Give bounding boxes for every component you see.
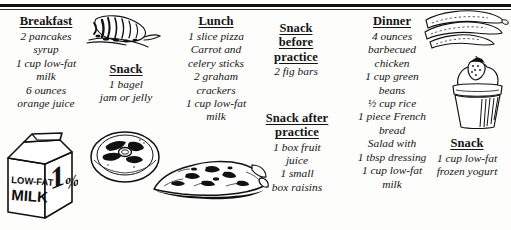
snack-evening-item: 1 cup low-fat	[424, 152, 510, 165]
breakfast-item: milk	[0, 70, 93, 83]
lunch-item: Carrot and	[164, 43, 268, 56]
carrot-illustration	[86, 10, 168, 54]
heading-snack-before-practice: before	[258, 36, 334, 49]
dinner-item: beans	[340, 84, 444, 97]
heading-lunch: Lunch	[164, 14, 268, 29]
column-snack-before-practice: Snack before practice 2 fig bars	[258, 22, 334, 78]
lunch-item: celery sticks	[164, 57, 268, 70]
carton-label-percent: 1	[50, 157, 65, 197]
breakfast-item: orange juice	[0, 97, 93, 110]
snack-morning-item: 1 bagel	[84, 78, 168, 91]
lunch-item: 1 cup low-fat	[164, 97, 268, 110]
snack-morning-item: jam or jelly	[84, 91, 168, 104]
milk-carton-illustration: LOW-FAT MILK 1 %	[4, 126, 78, 222]
snack-evening-item: frozen yogurt	[424, 165, 510, 178]
column-snack-evening: Snack 1 cup low-fat frozen yogurt	[424, 136, 510, 179]
snack-before-practice-item: 2 fig bars	[258, 65, 334, 78]
heading-breakfast: Breakfast	[0, 14, 93, 29]
meal-plan-page: Breakfast 2 pancakes syrup 1 cup low-fat…	[0, 0, 511, 230]
column-breakfast: Breakfast 2 pancakes syrup 1 cup low-fat…	[0, 14, 93, 110]
green-beans-illustration	[424, 6, 510, 58]
dinner-item: 1 piece French	[340, 110, 444, 123]
breakfast-item: syrup	[0, 43, 93, 56]
dinner-item: ½ cup rice	[340, 97, 444, 110]
heading-snack-after-practice: Snack after	[253, 112, 341, 125]
heading-snack-before-practice: Snack	[258, 22, 334, 35]
heading-snack-morning: Snack	[84, 62, 168, 77]
lunch-item: 1 slice pizza	[164, 30, 268, 43]
breakfast-item: 1 cup low-fat	[0, 57, 93, 70]
heading-snack-after-practice: practice	[253, 126, 341, 139]
dinner-item: 1 cup green	[340, 70, 444, 83]
heading-snack-before-practice: practice	[258, 51, 334, 64]
dinner-item: chicken	[340, 57, 444, 70]
lunch-item: 2 graham	[164, 70, 268, 83]
dinner-item: milk	[340, 178, 444, 191]
breakfast-item: 2 pancakes	[0, 30, 93, 43]
breakfast-item: 6 ounces	[0, 84, 93, 97]
frozen-yogurt-illustration	[444, 56, 508, 130]
column-snack-morning: Snack 1 bagel jam or jelly	[84, 62, 168, 105]
pizza-slice-illustration	[150, 148, 270, 204]
carton-label-milk: MILK	[11, 186, 49, 206]
lunch-item: crackers	[164, 84, 268, 97]
heading-snack-evening: Snack	[424, 136, 510, 151]
column-lunch: Lunch 1 slice pizza Carrot and celery st…	[164, 14, 268, 124]
